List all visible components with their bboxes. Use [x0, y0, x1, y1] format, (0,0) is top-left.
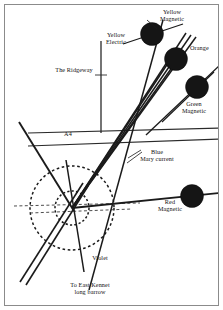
label-orange: Orange [190, 44, 220, 51]
line-southwest-1 [20, 183, 83, 282]
line-green-magnetic-2 [162, 72, 214, 122]
ley-line-diagram: Yellow MagneticYellow ElectricOrangeThe … [0, 0, 223, 310]
label-red-magnetic: Red Magnetic [151, 198, 189, 212]
line-hub-horizontal-dash-2 [30, 209, 132, 213]
label-yellow-magnetic: Yellow Magnetic [148, 8, 196, 22]
energy-lines-group [19, 20, 221, 290]
label-the-ridgeway: The Ridgeway [47, 66, 101, 73]
label-violet: Violet [88, 254, 112, 261]
node-orange [165, 48, 188, 71]
node-yellow-magnetic [141, 23, 164, 46]
road-a4-lower [28, 139, 220, 146]
node-green-magnetic [186, 76, 209, 99]
label-green-magnetic: Green Magnetic [174, 100, 214, 114]
label-blue-mary-current: Blue Mary current [130, 148, 184, 162]
line-blue-mary-2 [72, 52, 183, 208]
label-yellow-electric: Yellow Electric [99, 31, 133, 45]
label-a4: A4 [58, 130, 78, 137]
label-to-east-kennet: To East Kennet long barrow [58, 281, 122, 295]
